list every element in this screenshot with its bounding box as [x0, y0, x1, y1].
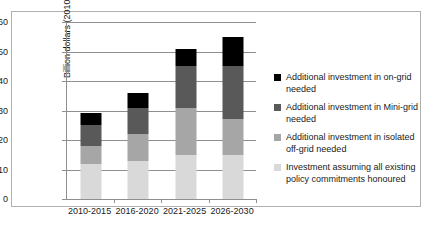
x-axis-tick-label: 2026-2030	[209, 206, 256, 216]
bar-segment[interactable]	[128, 108, 149, 135]
y-axis-tick-label: 60	[0, 18, 8, 27]
legend-item[interactable]: Investment assuming all existing policy …	[274, 162, 424, 185]
stacked-bar[interactable]	[175, 49, 196, 199]
y-axis-tick-label: 10	[0, 166, 8, 175]
stacked-bar[interactable]	[128, 93, 149, 199]
bar-segment[interactable]	[175, 49, 196, 67]
legend-item-label: Additional investment in Mini-grid neede…	[286, 102, 424, 125]
legend-item-label: Additional investment in isolated off-gr…	[286, 132, 424, 155]
bar-segment[interactable]	[80, 113, 101, 125]
legend-item[interactable]: Additional investment in isolated off-gr…	[274, 132, 424, 155]
bar-group	[67, 22, 256, 199]
bar-segment[interactable]	[175, 108, 196, 155]
bar-slot	[162, 22, 209, 199]
bar-slot	[67, 22, 114, 199]
bar-slot	[115, 22, 162, 199]
legend-item-label: Investment assuming all existing policy …	[286, 162, 424, 185]
legend-item[interactable]: Additional investment in Mini-grid neede…	[274, 102, 424, 125]
legend-swatch-icon	[274, 104, 281, 111]
y-axis-tick	[62, 52, 66, 53]
x-axis-tick	[161, 199, 162, 203]
bar-segment[interactable]	[223, 119, 244, 154]
y-axis-tick-label: 40	[0, 77, 8, 86]
bar-segment[interactable]	[80, 164, 101, 199]
x-axis-tick	[256, 199, 257, 203]
bar-segment[interactable]	[175, 155, 196, 199]
y-axis-tick	[62, 111, 66, 112]
x-axis-tick-label: 2010-2015	[66, 206, 113, 216]
bar-segment[interactable]	[175, 66, 196, 107]
legend-swatch-icon	[274, 164, 281, 171]
bar-segment[interactable]	[223, 155, 244, 199]
x-axis-tick-label: 2021-2025	[161, 206, 208, 216]
y-axis-tick-label: 30	[0, 107, 8, 116]
legend-item[interactable]: Additional investment in on-grid needed	[274, 72, 424, 95]
y-axis-tick	[62, 170, 66, 171]
bar-segment[interactable]	[223, 37, 244, 67]
x-axis-tick	[209, 199, 210, 203]
bar-segment[interactable]	[80, 125, 101, 146]
bar-segment[interactable]	[128, 134, 149, 161]
y-axis-tick	[62, 140, 66, 141]
legend-swatch-icon	[274, 134, 281, 141]
y-axis-tick	[62, 81, 66, 82]
y-axis-tick	[62, 199, 66, 200]
stacked-bar[interactable]	[223, 37, 244, 199]
y-axis-tick-label: 50	[0, 48, 8, 57]
bar-segment[interactable]	[128, 161, 149, 199]
plot-area: Billion dollars (2010) 01020304050602010…	[66, 22, 256, 208]
bar-segment[interactable]	[223, 66, 244, 119]
bar-segment[interactable]	[128, 93, 149, 108]
bar-slot	[210, 22, 257, 199]
y-axis-tick-label: 20	[0, 136, 8, 145]
stacked-bar[interactable]	[80, 113, 101, 199]
chart-legend: Additional investment in on-grid neededA…	[274, 72, 424, 192]
chart-frame: Billion dollars (2010) 01020304050602010…	[11, 11, 421, 207]
bar-segment[interactable]	[80, 146, 101, 164]
y-axis-tick	[62, 22, 66, 23]
x-axis-tick	[114, 199, 115, 203]
legend-swatch-icon	[274, 74, 281, 81]
x-axis-tick-label: 2016-2020	[114, 206, 161, 216]
legend-item-label: Additional investment in on-grid needed	[286, 72, 424, 95]
y-axis-tick-label: 0	[0, 195, 8, 204]
